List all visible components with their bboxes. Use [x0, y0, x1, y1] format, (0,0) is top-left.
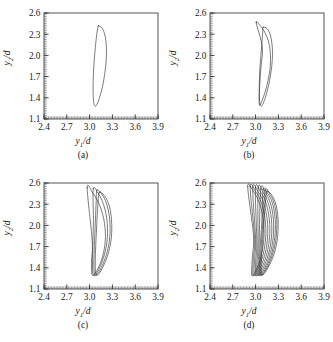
y-tick-label: 1.7 — [29, 242, 41, 252]
x-tick-label: 2.7 — [227, 292, 239, 302]
y-tick-label: 2.3 — [195, 200, 207, 210]
x-tick-label: 3.9 — [152, 122, 164, 132]
y-tick-label: 2.0 — [29, 221, 41, 231]
x-tick-label: 3.9 — [318, 122, 330, 132]
x-axis-label-a: y1/d — [0, 136, 166, 148]
y-tick-label: 2.6 — [29, 8, 41, 18]
y-tick-label: 2.0 — [195, 221, 207, 231]
y-tick-label: 2.3 — [29, 30, 41, 40]
y-tick-label: 1.1 — [29, 114, 41, 124]
x-tick-label: 3.6 — [129, 122, 141, 132]
y-tick-label: 2.6 — [195, 8, 207, 18]
x-axis-label-b: y1/d — [166, 136, 332, 148]
x-tick-label: 2.7 — [61, 292, 73, 302]
y-tick-label: 1.7 — [29, 72, 41, 82]
y-axis-label-c: y2/d — [2, 208, 14, 248]
y-tick-label: 1.4 — [29, 93, 41, 103]
y-axis-label-d: y2/d — [168, 208, 180, 248]
x-tick-label: 2.7 — [61, 122, 73, 132]
y-tick-label: 1.4 — [195, 93, 207, 103]
y-tick-label: 2.6 — [29, 178, 41, 188]
x-tick-label: 3.0 — [84, 122, 96, 132]
panel-a: 2.42.73.03.33.63.91.11.41.72.02.32.6 y1/… — [0, 0, 166, 171]
y-tick-label: 2.0 — [195, 51, 207, 61]
x-tick-label: 3.0 — [250, 122, 262, 132]
panel-b: 2.42.73.03.33.63.91.11.41.72.02.32.6 y1/… — [166, 0, 332, 171]
y-tick-label: 1.1 — [29, 284, 41, 294]
x-tick-label: 3.6 — [295, 292, 307, 302]
panel-c: 2.42.73.03.33.63.91.11.41.72.02.32.6 y1/… — [0, 170, 166, 341]
x-tick-label: 3.6 — [129, 292, 141, 302]
y-tick-label: 1.7 — [195, 72, 207, 82]
y-tick-label: 1.1 — [195, 114, 207, 124]
x-axis-label-d: y1/d — [166, 306, 332, 318]
panel-caption-b: (b) — [166, 150, 332, 160]
x-tick-label: 3.9 — [152, 292, 164, 302]
x-tick-label: 3.6 — [295, 122, 307, 132]
panel-caption-c: (c) — [0, 320, 166, 330]
y-tick-label: 1.4 — [195, 263, 207, 273]
x-axis-label-c: y1/d — [0, 306, 166, 318]
y-tick-label: 1.1 — [195, 284, 207, 294]
y-tick-label: 2.6 — [195, 178, 207, 188]
x-tick-label: 3.3 — [273, 122, 285, 132]
x-tick-label: 3.9 — [318, 292, 330, 302]
y-tick-label: 1.7 — [195, 242, 207, 252]
x-tick-label: 3.0 — [84, 292, 96, 302]
plot-frame — [44, 13, 158, 119]
panel-caption-a: (a) — [0, 150, 166, 160]
x-tick-label: 3.3 — [273, 292, 285, 302]
x-tick-label: 3.3 — [107, 122, 119, 132]
y-tick-label: 1.4 — [29, 263, 41, 273]
x-tick-label: 3.0 — [250, 292, 262, 302]
x-tick-label: 3.3 — [107, 292, 119, 302]
panel-caption-d: (d) — [166, 320, 332, 330]
y-axis-label-b: y2/d — [168, 38, 180, 78]
x-tick-label: 2.7 — [227, 122, 239, 132]
panel-d: 2.42.73.03.33.63.91.11.41.72.02.32.6 y1/… — [166, 170, 332, 341]
y-tick-label: 2.3 — [29, 200, 41, 210]
figure-root: 2.42.73.03.33.63.91.11.41.72.02.32.6 y1/… — [0, 0, 333, 342]
y-axis-label-a: y2/d — [2, 38, 14, 78]
y-tick-label: 2.0 — [29, 51, 41, 61]
y-tick-label: 2.3 — [195, 30, 207, 40]
